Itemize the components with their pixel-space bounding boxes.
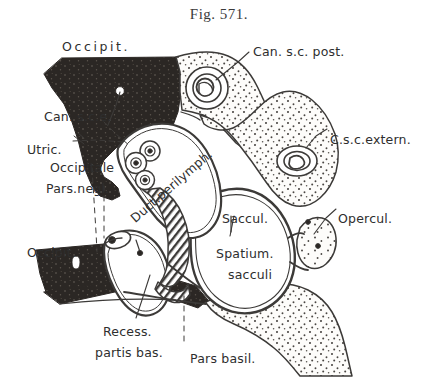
label-pars-basil: Pars basil. (190, 352, 256, 365)
label-can-sc-e: Can. s.c.e. (44, 110, 111, 123)
canal-post-section (186, 67, 228, 109)
label-spatium: Spatium. (216, 247, 274, 260)
label-sacculi: sacculi (228, 268, 272, 281)
opercular-dot (316, 244, 321, 249)
recessus-dot (137, 250, 142, 255)
opercular-dot-2 (306, 220, 311, 225)
label-opercul: Opercul. (338, 212, 392, 225)
label-partis-bas: partis bas. (95, 346, 163, 359)
label-csc-extern: C.s.c.extern. (330, 133, 411, 146)
label-saccul: Saccul. (222, 212, 268, 225)
canal-extern-section (277, 146, 317, 176)
bone-lacuna-upper (116, 87, 125, 96)
opercular-stipple (297, 217, 336, 268)
label-can-sc-post: Can. s.c. post. (253, 45, 345, 58)
label-pars-negl: Pars.negl. (46, 182, 109, 195)
label-occipit-top: Occipit. (62, 40, 130, 53)
label-occipit-left: Occipit. (27, 246, 76, 259)
label-recess: Recess. (103, 325, 152, 338)
label-utric: Utric. (27, 143, 62, 156)
figure-plate: Fig. 571. (0, 0, 438, 383)
label-occipitale: Occipitale (50, 161, 114, 174)
